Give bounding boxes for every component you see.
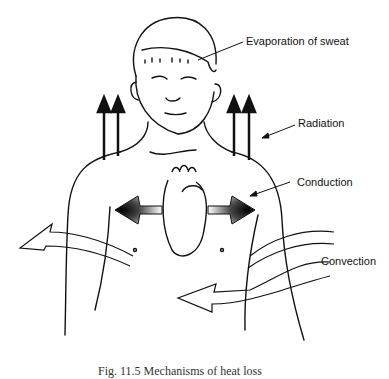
leader-lines [198,42,295,196]
heart [163,166,206,256]
label-evaporation: Evaporation of sweat [246,35,349,47]
radiation-arrows [98,97,255,160]
conduction-arrow-right-icon [208,196,255,224]
conduction-arrow-left-icon [115,196,162,224]
label-conduction: Conduction [297,176,353,188]
body-outline [65,17,304,340]
label-radiation: Radiation [298,117,344,129]
figure-caption: Fig. 11.5 Mechanisms of heat loss [98,364,262,379]
label-convection: Convection [321,255,376,267]
